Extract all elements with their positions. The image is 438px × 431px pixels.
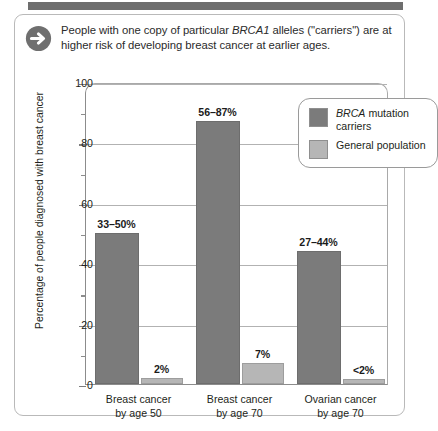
legend-swatch-light [309, 140, 328, 159]
legend-swatch-dark [309, 108, 328, 127]
bar [343, 379, 385, 384]
bar-value-label: 56–87% [198, 106, 236, 118]
y-tick-label: 60 [49, 198, 93, 210]
legend-item-carriers: BRCA mutation carriers [309, 107, 427, 133]
bar [196, 121, 240, 384]
y-axis-title: Percentage of people diagnosed with brea… [34, 86, 45, 336]
y-tick-label: 80 [49, 137, 93, 149]
plot-area: 33–50%2%56–87%7%27–44%<2% BRCA mutation … [85, 83, 388, 385]
top-rule-divider [28, 2, 403, 10]
caption-text: People with one copy of particular BRCA1… [61, 23, 395, 52]
bar-value-label: 7% [255, 348, 270, 360]
bar [242, 363, 284, 384]
x-tick-label: Breast cancerby age 70 [207, 393, 272, 420]
arrow-right-circle-icon [25, 25, 52, 52]
bar-value-label: <2% [353, 364, 374, 376]
x-axis-tick-labels: Breast cancerby age 50Breast cancerby ag… [85, 393, 388, 431]
legend-label-carriers: BRCA mutation carriers [336, 107, 427, 133]
x-label-line: by age 70 [207, 407, 272, 421]
caption-text-before: People with one copy of particular [61, 24, 232, 36]
bar-value-label: 27–44% [299, 236, 337, 248]
x-label-line: by age 70 [305, 407, 377, 421]
legend-label-general: General population [336, 139, 426, 152]
caption-block: People with one copy of particular BRCA1… [25, 23, 395, 52]
y-tick-label: 0 [49, 379, 93, 391]
y-tick-label: 20 [49, 319, 93, 331]
chart-legend: BRCA mutation carriers General populatio… [298, 98, 438, 168]
bar-value-label: 33–50% [97, 218, 135, 230]
bar [297, 251, 341, 384]
bar-value-label: 2% [154, 363, 169, 375]
legend-italic-brca: BRCA [336, 107, 365, 119]
legend-item-general: General population [309, 139, 427, 159]
bar [141, 378, 183, 384]
bar-chart: Percentage of people diagnosed with brea… [15, 75, 406, 417]
x-tick-label: Ovarian cancerby age 70 [305, 393, 377, 420]
caption-italic-term: BRCA1 [232, 24, 269, 36]
x-tick-label: Breast cancerby age 50 [106, 393, 171, 420]
x-label-line: by age 50 [106, 407, 171, 421]
figure-card: People with one copy of particular BRCA1… [14, 14, 405, 416]
y-tick-label: 100 [49, 77, 93, 89]
bar [95, 233, 139, 384]
x-label-line: Ovarian cancer [305, 393, 377, 407]
y-tick-label: 40 [49, 258, 93, 270]
x-label-line: Breast cancer [207, 393, 272, 407]
x-label-line: Breast cancer [106, 393, 171, 407]
